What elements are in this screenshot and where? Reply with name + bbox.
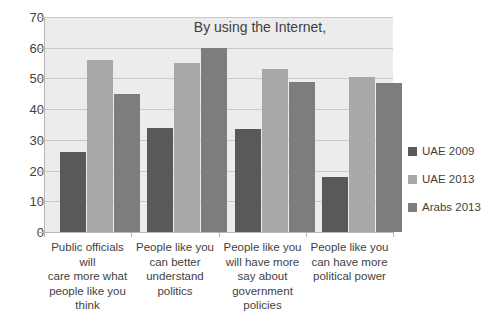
bar-uae2013-public-officials: [87, 60, 113, 232]
x-axis-labels: Public officials will care more what peo…: [44, 240, 393, 325]
x-axis-label-2-line-1: will have more: [226, 256, 300, 268]
chart-legend: UAE 2009 UAE 2013 Arabs 2013: [408, 137, 498, 221]
bar-uae2009-more-say: [235, 129, 261, 232]
x-axis-label-0-line-0: Public officials will: [51, 241, 124, 268]
y-tick-mark-30: [39, 140, 44, 141]
y-tick-mark-50: [39, 78, 44, 79]
legend-item-arabs-2013: Arabs 2013: [408, 193, 498, 221]
bar-uae2013-understand-politics: [174, 63, 200, 232]
bar-arabs2013-public-officials: [114, 94, 140, 232]
x-axis-label-1: People like you can better understand po…: [131, 240, 219, 298]
legend-item-uae-2013: UAE 2013: [408, 165, 498, 193]
x-axis-label-1-line-3: politics: [157, 285, 192, 297]
bars-layer: [44, 17, 393, 232]
x-axis-label-2: People like you will have more say about…: [219, 240, 306, 313]
x-axis-label-0-line-2: people like you: [49, 285, 126, 297]
x-axis-label-3: People like you can have more political …: [306, 240, 393, 284]
bar-uae2009-public-officials: [60, 152, 86, 232]
legend-label-uae-2009: UAE 2009: [422, 145, 474, 157]
x-axis-tick-4: [393, 232, 394, 237]
x-axis-label-1-line-2: understand: [146, 270, 204, 282]
x-axis-tick-1: [131, 232, 132, 237]
x-axis-tick-0: [44, 232, 45, 237]
x-axis-label-0: Public officials will care more what peo…: [44, 240, 131, 313]
y-tick-mark-0: [39, 232, 44, 233]
x-axis-label-3-line-0: People like you: [311, 241, 389, 253]
legend-swatch-icon-arabs-2013: [408, 203, 417, 212]
legend-swatch-icon-uae-2009: [408, 147, 417, 156]
x-axis-label-1-line-1: can better: [149, 256, 200, 268]
y-tick-mark-20: [39, 171, 44, 172]
legend-label-arabs-2013: Arabs 2013: [422, 201, 481, 213]
bar-uae2009-understand-politics: [147, 128, 173, 232]
x-axis-label-2-line-0: People like you: [224, 241, 302, 253]
x-axis-label-1-line-0: People like you: [136, 241, 214, 253]
bar-arabs2013-understand-politics: [201, 48, 227, 232]
bar-arabs2013-political-power: [376, 83, 402, 232]
x-axis-label-3-line-1: can have more: [311, 256, 387, 268]
legend-swatch-icon-uae-2013: [408, 175, 417, 184]
bar-arabs2013-more-say: [289, 82, 315, 233]
y-tick-mark-70: [39, 17, 44, 18]
legend-label-uae-2013: UAE 2013: [422, 173, 474, 185]
bar-uae2013-political-power: [349, 77, 375, 232]
legend-item-uae-2009: UAE 2009: [408, 137, 498, 165]
bar-chart: 70 60 50 40 30 20 10 0 By using the Inte…: [0, 0, 500, 331]
y-axis: 70 60 50 40 30 20 10 0: [0, 0, 44, 249]
x-axis-label-0-line-3: think: [75, 299, 99, 311]
bar-uae2009-political-power: [322, 177, 348, 232]
y-tick-mark-60: [39, 48, 44, 49]
bar-uae2013-more-say: [262, 69, 288, 232]
x-axis-tick-2: [219, 232, 220, 237]
x-axis-label-2-line-2: say about: [238, 270, 288, 282]
x-axis-label-0-line-1: care more what: [48, 270, 127, 282]
y-tick-mark-10: [39, 201, 44, 202]
x-axis-label-2-line-3: government: [232, 285, 293, 297]
chart-title: By using the Internet,: [150, 19, 370, 35]
x-axis-label-2-line-4: policies: [243, 299, 281, 311]
x-axis-label-3-line-2: political power: [313, 270, 386, 282]
x-axis-tick-3: [306, 232, 307, 237]
y-tick-mark-40: [39, 109, 44, 110]
